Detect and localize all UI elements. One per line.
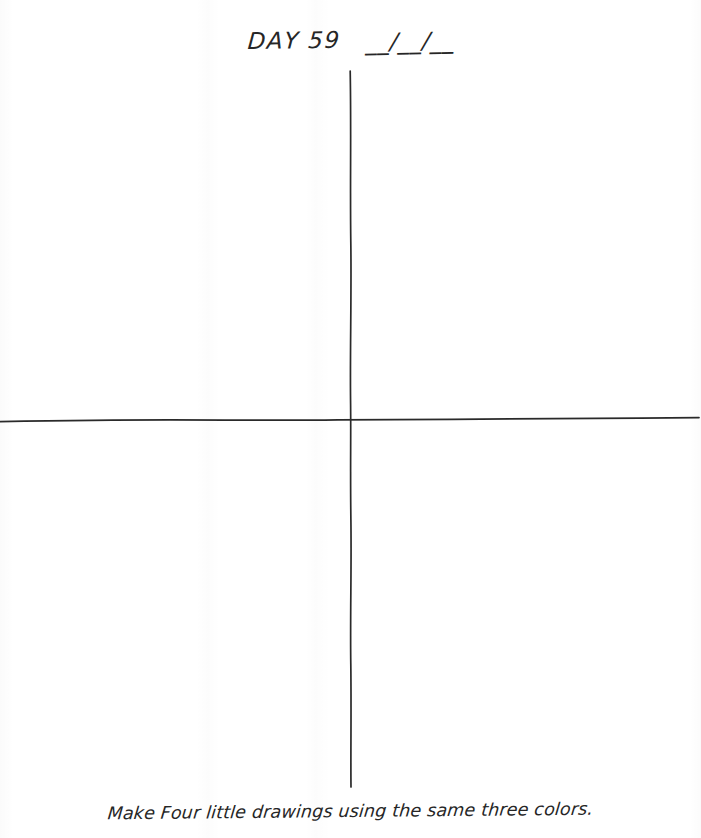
scan-texture-overlay [0, 0, 701, 838]
day-label: DAY 59 [247, 27, 341, 54]
vertical-divider-line [350, 71, 351, 787]
prompt-instruction-text: Make Four little drawings using the same… [107, 799, 594, 824]
quadrant-cross-lines [0, 0, 701, 838]
prompt-caption-row: Make Four little drawings using the same… [0, 794, 701, 828]
horizontal-divider-line [0, 418, 699, 422]
date-blank-field[interactable]: __/__/__ [365, 27, 456, 55]
page-header: DAY 59 __/__/__ [0, 28, 701, 72]
journal-page: DAY 59 __/__/__ Make Four little drawing… [0, 0, 701, 838]
